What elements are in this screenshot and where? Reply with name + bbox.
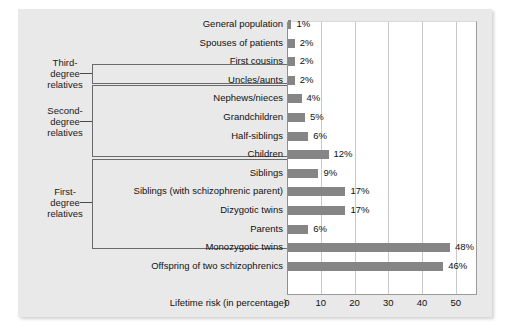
category-label: Children <box>28 145 283 162</box>
bar-value-label: 6% <box>313 131 327 140</box>
x-axis-title: Lifetime risk (in percentage) <box>32 297 287 308</box>
bar-value-label: 2% <box>300 38 314 47</box>
category-label: General population <box>28 15 283 32</box>
bar-value-label: 17% <box>350 186 369 195</box>
category-label: Dizygotic twins <box>28 201 283 218</box>
category-label: Parents <box>28 220 283 237</box>
category-label: Siblings <box>28 164 283 181</box>
x-tick-30: 30 <box>376 297 400 308</box>
category-labels: General populationSpouses of patientsFir… <box>18 9 492 317</box>
category-label: Nephews/nieces <box>28 89 283 106</box>
bar-value-label: 9% <box>323 168 337 177</box>
bar-value-label: 5% <box>310 112 324 121</box>
bar-value-label: 1% <box>296 19 310 28</box>
category-label: Half-siblings <box>28 127 283 144</box>
category-label: Offspring of two schizophrenics <box>28 257 283 274</box>
x-tick-50: 50 <box>444 297 468 308</box>
category-label: Spouses of patients <box>28 34 283 51</box>
x-tick-10: 10 <box>309 297 333 308</box>
bar-value-label: 2% <box>300 75 314 84</box>
category-label: First cousins <box>28 52 283 69</box>
x-tick-20: 20 <box>343 297 367 308</box>
bar-value-label: 2% <box>300 56 314 65</box>
chart-figure: Third- degree relatives Second- degree r… <box>18 9 492 317</box>
category-label: Siblings (with schizophrenic parent) <box>28 182 283 199</box>
bar-value-label: 17% <box>350 205 369 214</box>
bar-value-label: 4% <box>307 93 321 102</box>
bar-value-label: 12% <box>334 149 353 158</box>
bar-value-label: 6% <box>313 224 327 233</box>
bar-value-label: 48% <box>455 242 474 251</box>
category-label: Grandchildren <box>28 108 283 125</box>
category-label: Uncles/aunts <box>28 71 283 88</box>
x-tick-40: 40 <box>410 297 434 308</box>
bar-value-label: 46% <box>448 261 467 270</box>
category-label: Monozygotic twins <box>28 238 283 255</box>
